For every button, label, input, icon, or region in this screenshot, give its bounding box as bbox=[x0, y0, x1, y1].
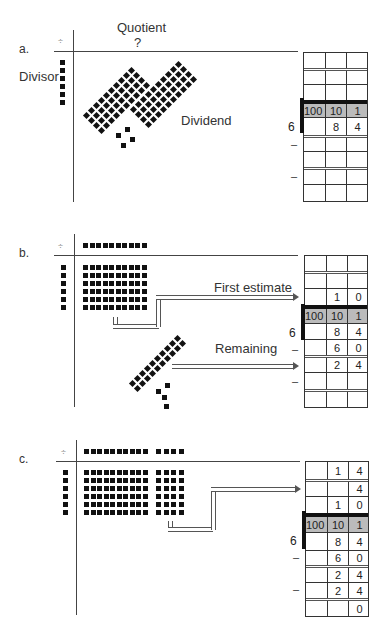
table-cell: 10 bbox=[326, 309, 347, 323]
table-cell: 6 bbox=[327, 551, 348, 565]
table-cell: 1 bbox=[327, 497, 348, 513]
unit-block bbox=[129, 281, 134, 286]
axis-vertical bbox=[73, 30, 74, 202]
unit-block bbox=[156, 389, 161, 394]
table-row: 14 bbox=[306, 462, 368, 479]
section-letter: c. bbox=[19, 452, 28, 466]
unit-block bbox=[104, 510, 109, 515]
table-cell: 4 bbox=[347, 324, 369, 339]
section-letter: a. bbox=[19, 42, 29, 56]
minus-sign: – bbox=[293, 583, 299, 595]
table-cell: 0 bbox=[348, 497, 370, 513]
table-cell: 100 bbox=[305, 309, 326, 323]
unit-block bbox=[143, 470, 148, 475]
unit-block bbox=[142, 289, 147, 294]
table-row: 10 bbox=[306, 496, 368, 513]
unit-block bbox=[116, 289, 121, 294]
unit-block bbox=[90, 297, 95, 302]
table-row bbox=[304, 135, 367, 151]
unit-block bbox=[138, 87, 145, 94]
unit-block bbox=[117, 449, 122, 454]
unit-block bbox=[103, 281, 108, 286]
unit-block bbox=[104, 478, 109, 483]
unit-block bbox=[164, 470, 169, 475]
table-cell bbox=[346, 152, 368, 167]
first-estimate-label: First estimate bbox=[214, 280, 292, 295]
table-cell bbox=[327, 482, 348, 496]
unit-block bbox=[117, 478, 122, 483]
unit-block bbox=[164, 486, 169, 491]
unit-block bbox=[96, 297, 101, 302]
unit-block bbox=[159, 360, 166, 367]
unit-block bbox=[129, 265, 134, 270]
unit-block bbox=[142, 243, 147, 248]
table-cell bbox=[305, 274, 326, 288]
unit-block bbox=[179, 510, 184, 515]
table-cell bbox=[304, 152, 325, 167]
unit-block bbox=[117, 486, 122, 491]
unit-block bbox=[179, 486, 184, 491]
unit-block bbox=[117, 510, 122, 515]
table-cell bbox=[306, 551, 327, 565]
place-value-header: 100101 bbox=[306, 513, 368, 532]
unit-block bbox=[123, 470, 128, 475]
axis-vertical bbox=[76, 440, 77, 615]
unit-block bbox=[104, 470, 109, 475]
unit-block bbox=[83, 281, 88, 286]
unit-block bbox=[165, 101, 172, 108]
table-row: 60 bbox=[305, 339, 367, 355]
unit-block bbox=[130, 494, 135, 499]
unit-block bbox=[130, 502, 135, 507]
unit-block bbox=[136, 470, 141, 475]
table-cell: 1 bbox=[327, 462, 348, 479]
unit-block bbox=[117, 494, 122, 499]
dividend-label: Dividend bbox=[181, 113, 232, 128]
table-cell: 1 bbox=[326, 289, 347, 305]
place-value-header: 100101 bbox=[304, 100, 367, 117]
table-cell: 4 bbox=[346, 118, 368, 135]
unit-block bbox=[142, 281, 147, 286]
unit-block bbox=[164, 404, 169, 409]
table-cell: 4 bbox=[348, 533, 370, 550]
section-letter: b. bbox=[19, 246, 29, 260]
unit-block bbox=[96, 289, 101, 294]
unit-block bbox=[60, 76, 65, 81]
table-cell: 0 bbox=[347, 289, 369, 305]
table-cell: 2 bbox=[327, 568, 348, 582]
table-cell bbox=[306, 568, 327, 582]
table-cell bbox=[346, 185, 368, 201]
unit-block bbox=[83, 273, 88, 278]
table-cell bbox=[326, 256, 347, 271]
unit-block bbox=[97, 494, 102, 499]
unit-block bbox=[169, 350, 176, 357]
table-row bbox=[304, 84, 367, 100]
unit-block bbox=[90, 289, 95, 294]
unit-block bbox=[97, 510, 102, 515]
unit-block bbox=[84, 478, 89, 483]
unit-block bbox=[109, 289, 114, 294]
unit-block bbox=[110, 470, 115, 475]
table-cell bbox=[305, 373, 326, 389]
table-cell bbox=[346, 85, 368, 100]
unit-block bbox=[142, 305, 147, 310]
table-cell: 0 bbox=[348, 551, 370, 565]
unit-block bbox=[90, 265, 95, 270]
unit-block bbox=[116, 243, 121, 248]
unit-block bbox=[97, 502, 102, 507]
unit-block bbox=[129, 243, 134, 248]
unit-block bbox=[135, 281, 140, 286]
table-row: 10 bbox=[305, 288, 367, 305]
unit-block bbox=[122, 289, 127, 294]
table-cell: 0 bbox=[348, 601, 370, 616]
unit-block bbox=[142, 297, 147, 302]
unit-block bbox=[179, 340, 186, 347]
divide-icon: ÷ bbox=[58, 36, 63, 46]
table-cell: 4 bbox=[348, 462, 370, 479]
division-bracket bbox=[300, 98, 304, 133]
unit-block bbox=[63, 510, 68, 515]
unit-block bbox=[171, 449, 176, 454]
table-cell bbox=[304, 170, 325, 184]
unit-block bbox=[108, 117, 115, 124]
unit-block bbox=[142, 265, 147, 270]
unit-block bbox=[129, 297, 134, 302]
